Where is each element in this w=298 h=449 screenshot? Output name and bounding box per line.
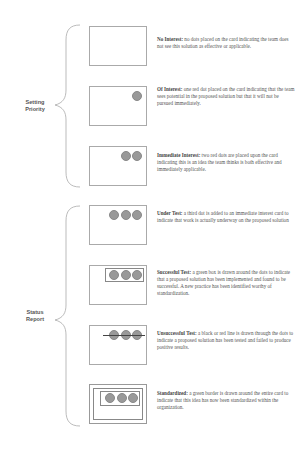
dots xyxy=(105,393,138,403)
card-unsuccessful-test xyxy=(89,325,147,365)
description-successful-test: Successful Test: a green box is drawn ar… xyxy=(157,269,295,297)
red-dot-icon xyxy=(109,210,119,220)
red-dot-icon xyxy=(121,210,131,220)
item-title: Standardized: xyxy=(157,390,188,396)
red-dot-icon xyxy=(132,210,142,220)
red-dot-icon xyxy=(132,270,142,280)
item-title: Of Interest: xyxy=(157,86,183,92)
group-label-status-report: Status Report xyxy=(15,309,55,323)
card-standardized xyxy=(89,384,147,424)
dots xyxy=(109,210,142,220)
description-under-test: Under Test: a third dot is added to an i… xyxy=(157,210,295,224)
label-line: Status xyxy=(15,309,55,316)
red-dot-icon xyxy=(121,270,131,280)
description-standardized: Standardized: a green border is drawn ar… xyxy=(157,390,295,411)
red-dot-icon xyxy=(121,151,131,161)
item-title: Successful Test: xyxy=(157,269,191,275)
red-dot-icon xyxy=(132,91,142,101)
description-unsuccessful-test: Unsuccessful Test: a black or red line i… xyxy=(157,330,295,351)
dots xyxy=(109,270,142,280)
card-under-test xyxy=(89,205,147,245)
item-title: Immediate Interest: xyxy=(157,152,200,158)
red-dot-icon xyxy=(117,393,127,403)
card-no-interest xyxy=(89,26,147,66)
label-line: Setting xyxy=(15,99,55,106)
red-dot-icon xyxy=(105,393,115,403)
red-dot-icon xyxy=(109,270,119,280)
group-label-setting-priority: Setting Priority xyxy=(15,99,55,113)
label-line: Priority xyxy=(15,106,55,113)
strike-line xyxy=(103,335,145,336)
description-immediate-interest: Immediate Interest: two red dots are pla… xyxy=(157,152,295,173)
description-no-interest: No Interest: no dots placed on the card … xyxy=(157,36,295,50)
red-dot-icon xyxy=(132,151,142,161)
card-of-interest xyxy=(89,86,147,126)
item-title: Unsuccessful Test: xyxy=(157,330,197,336)
item-title: Under Test: xyxy=(157,210,183,216)
card-immediate-interest xyxy=(89,146,147,186)
label-line: Report xyxy=(15,316,55,323)
card-successful-test xyxy=(89,265,147,305)
dots xyxy=(132,91,142,101)
description-of-interest: Of Interest: one red dot placed on the c… xyxy=(157,86,295,107)
item-title: No Interest: xyxy=(157,36,183,42)
dots xyxy=(121,151,143,161)
red-dot-icon xyxy=(128,393,138,403)
